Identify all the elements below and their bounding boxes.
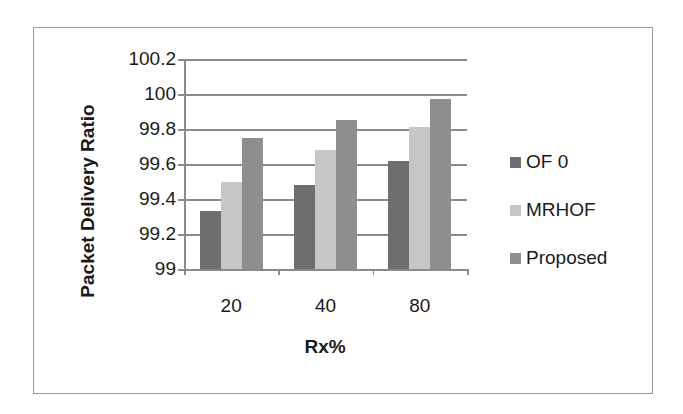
- legend-label: MRHOF: [526, 199, 596, 221]
- y-tick-mark: [178, 59, 184, 61]
- legend-swatch-icon: [510, 157, 521, 168]
- x-axis-line: [184, 269, 467, 271]
- legend-swatch-icon: [510, 253, 521, 264]
- legend-item-of-0: OF 0: [510, 151, 568, 173]
- bar-mrhof-80: [409, 127, 430, 269]
- x-axis-title: Rx%: [295, 336, 355, 358]
- bar-mrhof-20: [221, 182, 242, 270]
- y-tick-mark: [178, 94, 184, 96]
- bar-of-0-40: [294, 185, 315, 269]
- legend-item-proposed: Proposed: [510, 247, 607, 269]
- y-tick-label: 100: [116, 84, 176, 104]
- x-tick-mark: [373, 269, 375, 275]
- y-tick-label: 99.4: [116, 189, 176, 209]
- legend-label: Proposed: [526, 247, 607, 269]
- bar-of-0-80: [388, 161, 409, 270]
- legend-swatch-icon: [510, 205, 521, 216]
- bar-proposed-20: [242, 138, 263, 269]
- bar-of-0-20: [200, 211, 221, 269]
- x-tick-label: 20: [201, 296, 261, 316]
- x-tick-mark: [278, 269, 280, 275]
- legend-item-mrhof: MRHOF: [510, 199, 596, 221]
- gridline: [184, 59, 467, 61]
- x-tick-label: 40: [296, 296, 356, 316]
- legend-label: OF 0: [526, 151, 568, 173]
- y-axis-line: [184, 59, 186, 275]
- y-tick-label: 99.2: [116, 224, 176, 244]
- bar-proposed-80: [430, 99, 451, 269]
- x-tick-mark: [467, 269, 469, 275]
- y-tick-label: 99.6: [116, 154, 176, 174]
- bar-proposed-40: [336, 120, 357, 269]
- y-tick-mark: [178, 234, 184, 236]
- y-tick-mark: [178, 164, 184, 166]
- y-tick-label: 99.8: [116, 119, 176, 139]
- y-axis-title: Packet Delivery Ratio: [77, 86, 99, 316]
- y-tick-label: 99: [116, 259, 176, 279]
- bar-mrhof-40: [315, 150, 336, 269]
- y-tick-mark: [178, 129, 184, 131]
- y-tick-label: 100.2: [116, 49, 176, 69]
- gridline: [184, 94, 467, 96]
- x-tick-mark: [184, 269, 186, 275]
- y-tick-mark: [178, 199, 184, 201]
- x-tick-label: 80: [390, 296, 450, 316]
